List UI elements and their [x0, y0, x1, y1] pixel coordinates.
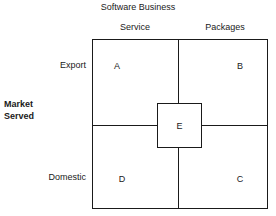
- axis-label-line-2: Served: [4, 111, 76, 123]
- column-header-service: Service: [92, 22, 178, 33]
- chart-title: Software Business: [0, 2, 276, 13]
- quadrant-label-b: B: [233, 61, 247, 72]
- axis-label-line-1: Market: [4, 99, 76, 111]
- column-header-packages: Packages: [182, 22, 268, 33]
- center-cell: E: [157, 103, 202, 148]
- row-header-domestic: Domestic: [14, 172, 86, 183]
- row-header-export: Export: [24, 60, 86, 71]
- matrix-diagram: Software Business Service Packages Expor…: [0, 0, 276, 216]
- center-cell-label: E: [176, 121, 182, 131]
- axis-label-market-served: Market Served: [4, 99, 76, 122]
- quadrant-label-a: A: [110, 61, 124, 72]
- quadrant-label-c: C: [233, 174, 247, 185]
- quadrant-label-d: D: [115, 174, 129, 185]
